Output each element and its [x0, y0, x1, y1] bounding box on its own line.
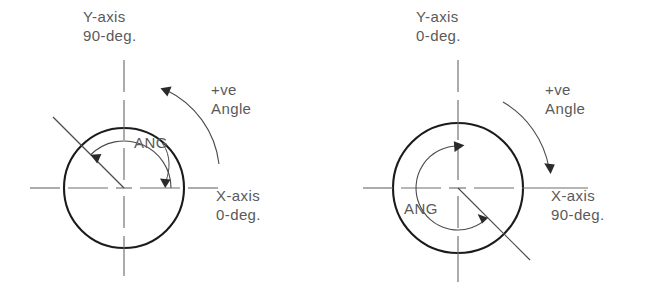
- left-x-axis-label-line2: 0-deg.: [216, 206, 261, 223]
- left-ang-leader-arrowhead: [160, 179, 171, 188]
- right-radial-line: [458, 188, 530, 260]
- right-positive-label-line1: +ve: [545, 81, 571, 98]
- left-positive-label-line1: +ve: [211, 81, 237, 98]
- right-ang-arc-start-arrowhead: [454, 141, 465, 152]
- right-positive-label-line2: Angle: [545, 100, 585, 117]
- left-diagram: Y-axis 90-deg. X-axis 0-deg. +ve Angle A…: [30, 8, 261, 276]
- diagram-canvas: Y-axis 90-deg. X-axis 0-deg. +ve Angle A…: [0, 0, 652, 306]
- right-y-axis-label-line1: Y-axis: [416, 8, 459, 25]
- left-y-axis-label-line1: Y-axis: [83, 8, 126, 25]
- left-positive-label-line2: Angle: [211, 100, 251, 117]
- right-x-axis-label-line2: 90-deg.: [551, 206, 605, 223]
- right-diagram: Y-axis 0-deg. X-axis 90-deg. +ve Angle A…: [363, 8, 605, 282]
- angle-convention-figure: Y-axis 90-deg. X-axis 0-deg. +ve Angle A…: [0, 0, 652, 306]
- left-y-axis-label-line2: 90-deg.: [83, 27, 137, 44]
- left-ang-arc-arrowhead: [91, 154, 102, 164]
- left-ang-label: ANG: [134, 134, 168, 151]
- right-x-axis-label-line1: X-axis: [551, 187, 595, 204]
- left-radial-line: [53, 117, 124, 188]
- left-x-axis-label-line1: X-axis: [216, 187, 260, 204]
- right-positive-angle-arrowhead: [544, 163, 555, 174]
- right-y-axis-label-line2: 0-deg.: [416, 27, 461, 44]
- right-ang-label: ANG: [404, 200, 438, 217]
- right-positive-angle-arc: [503, 102, 549, 168]
